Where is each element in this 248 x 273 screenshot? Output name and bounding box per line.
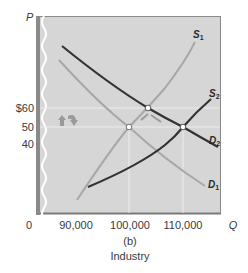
- x-tick-0: 0: [26, 220, 32, 231]
- s2-label-text: S: [209, 88, 216, 99]
- x-tick-100000: 100,000: [110, 220, 150, 231]
- s1-label-text: S: [193, 29, 200, 40]
- d2-label-sub: 2: [216, 140, 220, 147]
- y-tick-40: 40: [22, 139, 34, 150]
- x-tick-110000: 110,000: [164, 220, 203, 231]
- x-axis-label: Q: [229, 220, 238, 231]
- y-axis-line: [36, 16, 40, 215]
- x-tick-90000: 90,000: [59, 220, 93, 231]
- s2-label: S2: [209, 89, 220, 100]
- s1-label: S1: [193, 30, 204, 41]
- d1-label: D1: [208, 180, 219, 191]
- y-axis-label: P: [26, 12, 33, 23]
- d1-label-sub: 1: [215, 184, 219, 191]
- equilibrium-point-short-run: [145, 105, 151, 111]
- equilibrium-point-long-run: [180, 124, 186, 130]
- supply-demand-chart: P $60 50 40 0 90,000 100,000 110,000 Q (…: [0, 0, 248, 273]
- s2-label-sub: 2: [216, 93, 220, 100]
- y-tick-50: 50: [22, 122, 34, 133]
- chart-caption: Industry: [110, 251, 149, 262]
- panel-label: (b): [123, 236, 136, 247]
- d2-label: D2: [209, 136, 220, 147]
- equilibrium-point-initial: [126, 124, 132, 130]
- y-tick-60: $60: [16, 103, 34, 114]
- s1-label-sub: 1: [200, 34, 204, 41]
